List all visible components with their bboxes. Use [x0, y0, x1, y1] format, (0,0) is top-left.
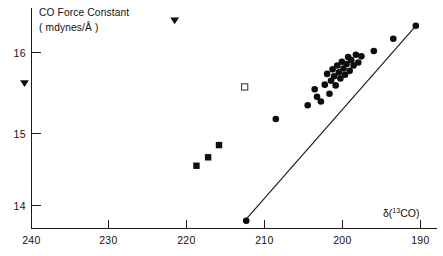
- x-axis-title-tail: CO): [400, 207, 419, 219]
- x-tick-label-220: 220: [177, 234, 196, 246]
- y-tick-label-16: 16: [14, 47, 26, 59]
- data-point-circle: [413, 22, 420, 29]
- data-point-square-filled: [193, 163, 199, 169]
- data-point-square-filled: [205, 154, 211, 160]
- y-tick-label-15: 15: [14, 128, 26, 140]
- y-tick-marks: [32, 53, 42, 206]
- x-tick-label-190: 190: [411, 234, 430, 246]
- data-point-circle: [326, 91, 333, 98]
- data-point-circle: [243, 218, 250, 225]
- data-point-circle: [346, 68, 353, 75]
- data-point-circle: [390, 35, 397, 42]
- x-tick-marks: [32, 220, 421, 229]
- svg-text:δ(13CO): δ(13CO): [383, 207, 419, 219]
- data-point-triangle-down: [170, 18, 179, 25]
- regression-line: [245, 24, 418, 221]
- series-open-square: [242, 84, 248, 90]
- x-axis-title: δ(13CO): [383, 207, 419, 219]
- series-filled-squares: [193, 142, 222, 169]
- x-tick-label-240: 240: [22, 234, 41, 246]
- x-tick-label-210: 210: [255, 234, 274, 246]
- data-point-circle: [324, 71, 331, 78]
- data-point-circle: [332, 82, 339, 89]
- data-point-square-open: [242, 84, 248, 90]
- data-point-circle: [311, 86, 318, 93]
- data-point-circle: [371, 48, 378, 55]
- data-point-circle: [355, 59, 362, 66]
- x-axis-title-superscript: 13: [392, 207, 400, 214]
- y-tick-label-14: 14: [14, 200, 26, 212]
- co-force-constant-scatter-chart: 16 15 14 240 230 220 210 200 190 CO Forc…: [0, 0, 443, 256]
- data-point-circle: [322, 81, 329, 88]
- data-point-triangle-down: [20, 80, 29, 87]
- data-point-square-filled: [216, 142, 222, 148]
- plot-area: 16 15 14 240 230 220 210 200 190 CO Forc…: [0, 0, 443, 256]
- y-axis-title-line2: ( mdynes/Å ): [39, 21, 99, 33]
- data-point-circle: [318, 98, 325, 105]
- x-tick-label-230: 230: [99, 234, 118, 246]
- data-point-circle: [358, 53, 365, 60]
- y-axis-title-line1: CO Force Constant: [39, 7, 129, 18]
- data-point-circle: [304, 102, 311, 109]
- x-tick-label-200: 200: [333, 234, 352, 246]
- data-point-circle: [272, 116, 279, 123]
